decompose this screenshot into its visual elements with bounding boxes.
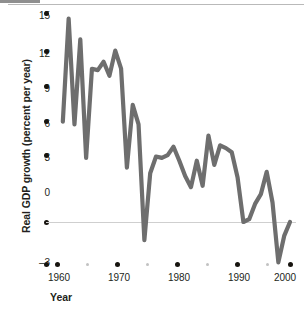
chart-figure: Real GDP growth (percent per year) Year … bbox=[0, 0, 304, 312]
gdp-growth-line bbox=[63, 19, 290, 263]
plot-area bbox=[0, 0, 304, 312]
